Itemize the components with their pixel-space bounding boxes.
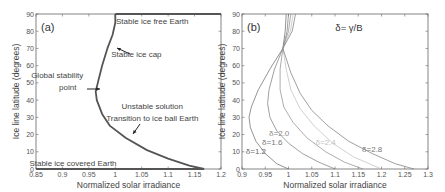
y-tick-label: 60	[232, 62, 240, 69]
y-tick-label: 60	[26, 62, 34, 69]
x-tick-label: 1.15	[188, 171, 202, 178]
y-tick-label: 40	[232, 97, 240, 104]
x-tick-label: 1.1	[330, 171, 340, 178]
y-tick-label: 90	[232, 11, 240, 18]
x-tick-label: 1.3	[423, 171, 433, 178]
y-tick-label: 20	[26, 131, 34, 138]
x-tick-label: 0.95	[258, 171, 272, 178]
y-tick-label: 10	[232, 148, 240, 155]
x-axis-label: Normalized solar irradiance	[77, 180, 181, 190]
y-tick-label: 50	[232, 79, 240, 86]
annotation: Unstable solution	[122, 102, 183, 111]
annotation: Stable ice covered Earth	[29, 159, 116, 168]
y-tick-label: 80	[232, 28, 240, 35]
chart-title: δ= γ/B	[335, 22, 362, 33]
x-tick-label: 1.2	[377, 171, 387, 178]
y-axis-label: Ice line latitude (degrees)	[11, 44, 21, 140]
x-tick-label: 1.15	[351, 171, 365, 178]
figure: 0.850.90.9511.051.11.151.201020304050607…	[0, 0, 445, 192]
series-label: δ=1.6	[262, 138, 283, 147]
x-tick-label: 0.95	[82, 171, 96, 178]
annotation: Stable ice free Earth	[116, 17, 188, 26]
y-tick-label: 80	[26, 28, 34, 35]
annotation: Stable ice cap	[111, 50, 162, 59]
panel-b-chart: 0.90.9511.051.11.151.21.251.301020304050…	[217, 11, 433, 191]
x-tick-label: 1.25	[398, 171, 412, 178]
y-tick-label: 10	[26, 148, 34, 155]
annotation: Global stability	[31, 71, 83, 80]
x-tick-label: 1.2	[216, 171, 226, 178]
series-label: δ=2.0	[269, 129, 290, 138]
panel-label: (a)	[41, 21, 54, 33]
x-tick-label: 1.05	[305, 171, 319, 178]
y-tick-label: 30	[26, 114, 34, 121]
series-label: δ=1.2	[246, 147, 267, 156]
y-tick-label: 0	[236, 166, 240, 173]
y-tick-label: 30	[232, 114, 240, 121]
y-tick-label: 90	[26, 11, 34, 18]
annotation: Transition to ice ball Earth	[106, 114, 198, 123]
panel-label: (b)	[247, 21, 260, 33]
series-label: δ=2.8	[362, 145, 383, 154]
y-tick-label: 20	[232, 131, 240, 138]
x-tick-label: 1	[113, 171, 117, 178]
y-axis-label: Ice line latitude (degrees)	[217, 44, 227, 140]
x-tick-label: 1.05	[135, 171, 149, 178]
x-tick-label: 1	[287, 171, 291, 178]
y-tick-label: 40	[26, 97, 34, 104]
y-tick-label: 70	[232, 45, 240, 52]
y-tick-label: 50	[26, 79, 34, 86]
y-tick-label: 70	[26, 45, 34, 52]
series-label: δ=2.4	[316, 138, 337, 147]
x-tick-label: 0.9	[58, 171, 68, 178]
x-axis-label: Normalized solar irradiance	[283, 180, 387, 190]
annotation: point	[59, 83, 77, 92]
panel-a-chart: 0.850.90.9511.051.11.151.201020304050607…	[11, 11, 226, 191]
x-tick-label: 1.1	[163, 171, 173, 178]
